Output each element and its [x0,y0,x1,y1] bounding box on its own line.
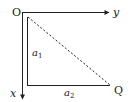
side-a1-label: a1 [32,47,42,60]
side-a1-sub: 1 [38,52,42,60]
side-a2-sub: 2 [70,92,74,100]
side-a2-label: a2 [64,87,74,100]
x-axis-label: x [10,87,17,100]
point-q-label: Q [114,84,123,97]
coordinate-diagram: O y x Q a1 a2 [0,0,131,102]
y-axis-label: y [112,6,120,19]
origin-label: O [12,6,21,19]
diagonal-dashed-line [28,17,110,85]
